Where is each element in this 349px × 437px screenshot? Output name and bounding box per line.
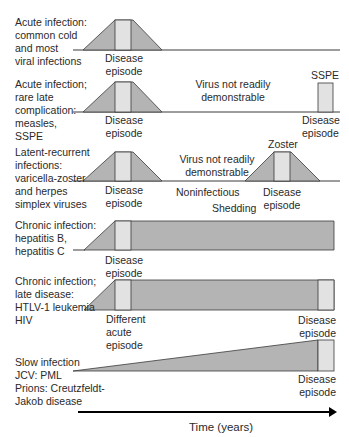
row4-title-line: hepatitis C — [15, 245, 96, 258]
row4-graphic — [73, 221, 334, 250]
time-axis-label: Time (years) — [189, 421, 253, 434]
row6-title: Slow infection JCV: PML Prions: Creutzfe… — [15, 356, 105, 408]
row2-title-line: Acute infection; — [15, 78, 87, 91]
row1-episode-label: Disease episode — [100, 52, 148, 78]
row3-episode-label: Disease episode — [100, 184, 148, 210]
episode-label-line: episode — [100, 197, 148, 210]
episode-label-line: Disease — [292, 373, 336, 386]
row2-episode-label: Disease episode — [100, 114, 148, 140]
episode-label-line: Disease — [100, 254, 148, 267]
episode-label-line: episode — [258, 199, 306, 212]
episode-label-line: Disease — [100, 184, 148, 197]
episode-label-line: episode — [100, 127, 148, 140]
time-arrow — [78, 407, 337, 417]
episode-label-line: acute — [106, 326, 146, 339]
row3-title-line: varicella-zoster — [15, 172, 90, 185]
row1-title-line: common cold — [15, 29, 87, 42]
row5-title-line: late disease: — [15, 288, 96, 301]
row2-middle-label: Virus not readily demonstrable — [178, 78, 288, 104]
row3-zoster-label: Zoster — [268, 138, 298, 151]
row4-title: Chronic infection: hepatitis B, hepatiti… — [15, 219, 96, 258]
row3-noninfectious-label: Noninfectious — [176, 186, 240, 199]
row5-title-line: Chronic infection; — [15, 275, 96, 288]
row2-late-episode-label: Disease episode — [302, 114, 336, 140]
row6-title-line: Jakob disease — [15, 395, 105, 408]
row3-shedding-label: Shedding — [212, 202, 256, 215]
episode-label-line: episode — [292, 327, 336, 340]
row2-title-line: rare late — [15, 91, 87, 104]
episode-label-line: episode — [100, 65, 148, 78]
row3-middle-label: Virus not readily demonstrable — [162, 153, 272, 179]
row6-title-line: Prions: Creutzfeldt- — [15, 382, 105, 395]
row5-title: Chronic infection; late disease: HTLV-1 … — [15, 275, 96, 327]
row2-title-line: measles, — [15, 117, 87, 130]
episode-label-line: Disease — [100, 114, 148, 127]
row5-graphic — [84, 280, 334, 310]
row2-sspe-label: SSPE — [311, 69, 339, 82]
episode-label-line: episode — [302, 127, 336, 140]
middle-label-line: Virus not readily — [178, 78, 288, 91]
middle-label-line: Virus not readily — [162, 153, 272, 166]
row3-recurrence-episode-label: Disease episode — [258, 186, 306, 212]
middle-label-line: demonstrable — [178, 91, 288, 104]
episode-label-line: Disease — [302, 114, 336, 127]
row3-title-line: and herpes — [15, 185, 90, 198]
episode-label-line: Different — [106, 313, 146, 326]
row6-title-line: Slow infection — [15, 356, 105, 369]
row2-title-line: SSPE — [15, 130, 87, 143]
row5-episode-label: Different acute episode — [106, 313, 146, 352]
row1-graphic — [73, 20, 340, 50]
row3-title-line: simplex viruses — [15, 198, 90, 211]
row5-title-line: HTLV-1 leukemia — [15, 301, 96, 314]
row1-title: Acute infection: common cold and most vi… — [15, 16, 87, 68]
row5-late-episode-label: Disease episode — [292, 314, 336, 340]
row6-title-line: JCV: PML — [15, 369, 105, 382]
episode-label-line: Disease — [292, 314, 336, 327]
row1-title-line: Acute infection: — [15, 16, 87, 29]
episode-label-line: Disease — [100, 52, 148, 65]
row4-title-line: hepatitis B, — [15, 232, 96, 245]
row2-title-line: complication: — [15, 104, 87, 117]
middle-label-line: demonstrable — [162, 166, 272, 179]
row4-episode-label: Disease episode — [100, 254, 148, 280]
row4-title-line: Chronic infection: — [15, 219, 96, 232]
episode-label-line: episode — [100, 267, 148, 280]
row3-title-line: infections: — [15, 159, 90, 172]
episode-label-line: Disease — [258, 186, 306, 199]
row1-title-line: viral infections — [15, 55, 87, 68]
episode-label-line: episode — [292, 386, 336, 399]
row6-late-episode-label: Disease episode — [292, 373, 336, 399]
episode-label-line: episode — [106, 339, 146, 352]
row5-title-line: HIV — [15, 314, 96, 327]
row3-title-line: Latent-recurrent — [15, 146, 90, 159]
row1-title-line: and most — [15, 42, 87, 55]
row3-title: Latent-recurrent infections: varicella-z… — [15, 146, 90, 211]
row2-title: Acute infection; rare late complication:… — [15, 78, 87, 143]
